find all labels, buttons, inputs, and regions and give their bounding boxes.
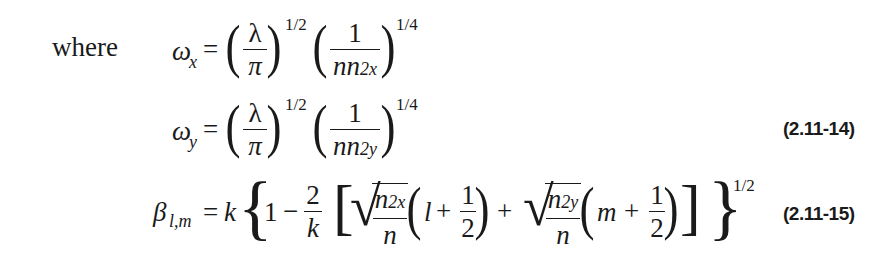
numerator-subscript: 2y [561,192,578,212]
numerator-base: n [548,184,562,214]
right-paren: ) [380,96,395,156]
numerator-base: n [375,184,389,214]
equals-sign: = [203,36,218,63]
denominator-base: nn [333,51,360,81]
numerator: 1 [348,18,362,48]
fraction-bar [330,49,380,50]
k-symbol: k [224,199,236,226]
denominator: n [383,220,397,250]
left-paren: ( [312,16,327,76]
lhs-subscript: y [189,132,197,153]
exponent: 1/4 [396,95,418,115]
numerator: 1 [461,180,475,210]
denominator: nn2x [333,51,377,84]
plus-sign: + [436,198,451,225]
left-paren: ( [406,178,421,238]
plus-sign: + [497,198,512,225]
variable-l: l [424,199,432,226]
exponent: 1/2 [733,176,755,196]
variable-m: m [597,199,617,226]
fraction-one-over-nn2x: 1 nn2x [330,18,380,84]
equation-number: (2.11-14) [783,118,855,140]
numerator: n2y [548,184,579,217]
numerator: λ [248,98,261,128]
left-paren: ( [579,178,594,238]
fraction-one-over-nn2y: 1 nn2y [330,98,380,164]
fraction-two-over-k: 2 k [304,180,322,243]
exponent: 1/2 [285,15,307,35]
numerator: 1 [348,98,362,128]
denominator: 2 [650,213,664,243]
lhs-subscript: x [189,52,197,73]
denominator: 2 [461,213,475,243]
denominator-subscript: 2x [360,59,377,79]
equation-number: (2.11-15) [783,203,855,225]
denominator: n [556,220,570,250]
fraction-bar [304,211,322,212]
numerator-subscript: 2x [388,192,405,212]
exponent: 1/2 [285,95,307,115]
exponent: 1/4 [396,15,418,35]
left-paren: ( [225,16,240,76]
intro-word: where [52,34,118,61]
numerator: 2 [306,180,320,210]
right-paren: ) [266,16,281,76]
fraction-bar [243,49,267,50]
left-paren: ( [312,96,327,156]
equals-sign: = [203,116,218,143]
denominator: π [248,51,262,81]
right-paren: ) [380,16,395,76]
fraction-bar [243,129,267,130]
denominator: π [248,131,262,161]
denominator-base: nn [333,131,360,161]
right-paren: ) [474,178,489,238]
fraction-lambda-over-pi: λ π [243,18,267,81]
plus-sign: + [624,198,639,225]
left-paren: ( [225,96,240,156]
right-paren: ) [663,178,678,238]
one-symbol: 1 [264,199,278,226]
right-paren: ) [266,96,281,156]
lhs-symbol: β [153,199,166,226]
denominator-subscript: 2y [360,139,377,159]
numerator: 1 [650,180,664,210]
fraction-bar [373,218,407,219]
equals-sign: = [203,199,218,226]
denominator: nn2y [333,131,377,164]
fraction-bar [546,218,580,219]
numerator: n2x [375,184,406,217]
right-bracket: ] [680,176,701,238]
lhs-subscript: l,m [169,211,192,232]
fraction-n2x-over-n: n2x n [373,184,407,250]
fraction-lambda-over-pi: λ π [243,98,267,161]
fraction-n2y-over-n: n2y n [546,184,580,250]
denominator: k [307,213,319,243]
numerator: λ [248,18,261,48]
fraction-bar [330,129,380,130]
minus-sign: − [283,198,298,225]
